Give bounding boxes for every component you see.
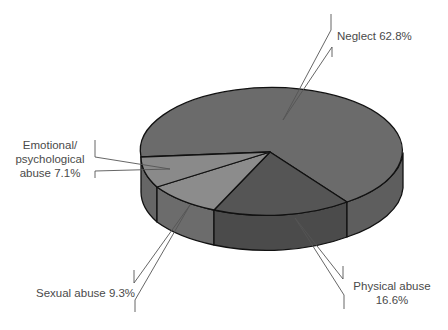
pie-top [140, 88, 402, 216]
physical-label: Physical abuse 16.6% [348, 279, 436, 307]
sexual-label: Sexual abuse 9.3% [36, 286, 135, 300]
neglect-label: Neglect 62.8% [337, 29, 412, 43]
emotional-label: Emotional/ psychological abuse 7.1% [8, 138, 92, 180]
physical-label-line1: Physical abuse [348, 279, 436, 293]
emotional-label-line1: Emotional/ [8, 138, 92, 152]
physical-label-line2: 16.6% [348, 293, 436, 307]
emotional-label-line2: psychological [8, 152, 92, 166]
emotional-label-line3: abuse 7.1% [8, 166, 92, 180]
